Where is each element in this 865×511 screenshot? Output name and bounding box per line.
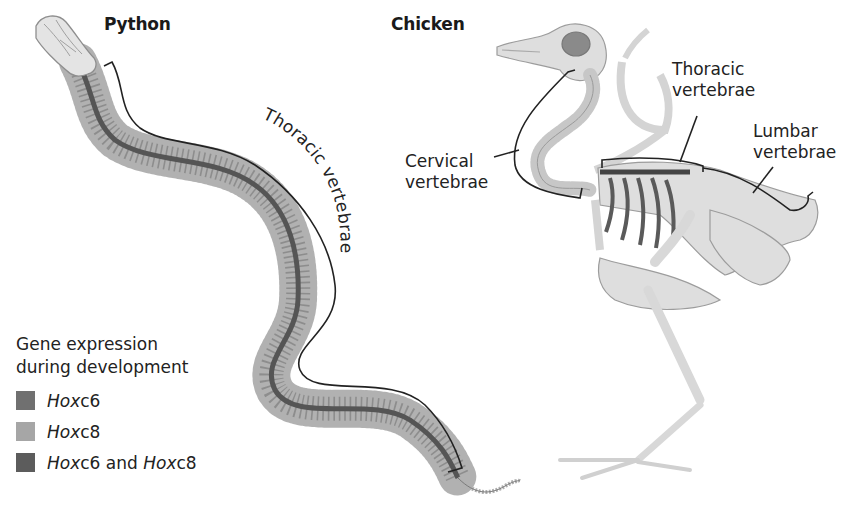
chicken-cervical-label: Cervical vertebrae xyxy=(405,151,488,193)
thoracic-label-line1: Thoracic xyxy=(672,59,755,80)
thoracic-label-line2: vertebrae xyxy=(672,80,755,101)
legend-label: Hoxc6 and Hoxc8 xyxy=(47,453,197,473)
lumbar-label-line2: vertebrae xyxy=(753,142,836,163)
legend-item-hoxc6-and-hoxc8: Hoxc6 and Hoxc8 xyxy=(16,447,197,478)
legend-title-line2: during development xyxy=(16,356,197,379)
legend-swatch xyxy=(16,391,35,410)
cervical-label-line1: Cervical xyxy=(405,151,488,172)
legend-title-line1: Gene expression xyxy=(16,333,197,356)
chicken-lumbar-label: Lumbar vertebrae xyxy=(753,121,836,163)
python-title: Python xyxy=(104,14,171,34)
legend-label: Hoxc6 xyxy=(47,391,100,411)
gene-expression-legend: Gene expression during development Hoxc6… xyxy=(16,333,197,478)
lumbar-label-line1: Lumbar xyxy=(753,121,836,142)
legend-item-hoxc8: Hoxc8 xyxy=(16,416,197,447)
chicken-thoracic-label: Thoracic vertebrae xyxy=(672,59,755,101)
cervical-label-line2: vertebrae xyxy=(405,172,488,193)
legend-swatch xyxy=(16,453,35,472)
chicken-title: Chicken xyxy=(391,14,465,34)
legend-item-hoxc6: Hoxc6 xyxy=(16,385,197,416)
legend-title: Gene expression during development xyxy=(16,333,197,379)
legend-swatch xyxy=(16,422,35,441)
legend-label: Hoxc8 xyxy=(47,422,100,442)
chicken-skeleton xyxy=(497,24,818,478)
